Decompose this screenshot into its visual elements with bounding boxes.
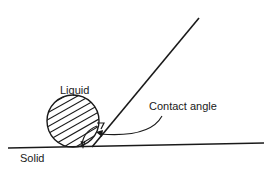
solid-label: Solid: [20, 152, 44, 164]
contact-angle-pointer-arrow: [96, 116, 162, 137]
solid-surface-line: [8, 143, 264, 148]
incline-line: [92, 18, 199, 147]
contact-angle-diagram: [0, 0, 270, 170]
liquid-droplet: [40, 88, 106, 148]
contact-angle-label: Contact angle: [149, 100, 217, 112]
liquid-label: Liquid: [60, 84, 89, 96]
